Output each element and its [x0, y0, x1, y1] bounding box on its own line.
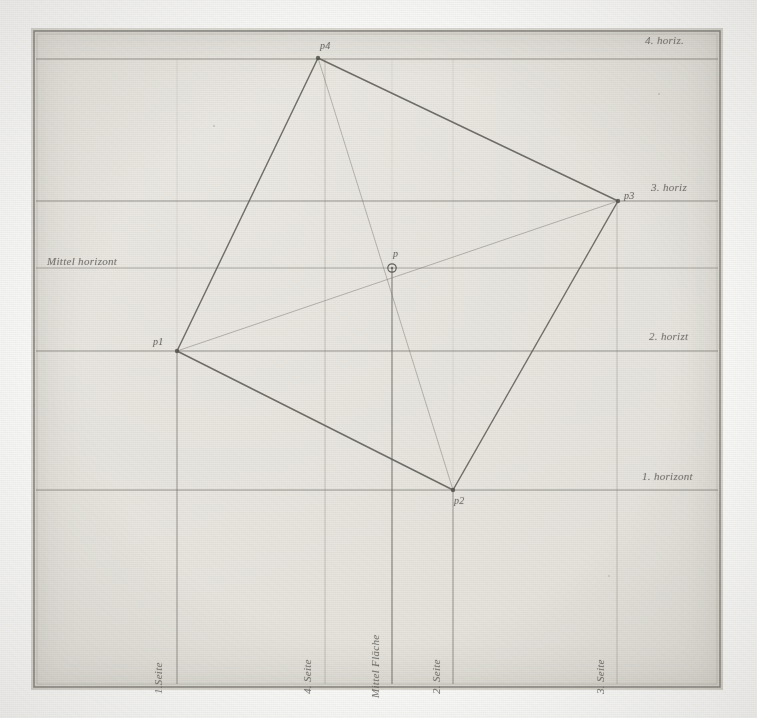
vertex-p1: [175, 349, 179, 353]
vertex-p2: [451, 488, 455, 492]
edge-p1-p4: [177, 58, 318, 351]
vertex-p4: [316, 56, 320, 60]
vertex-p-center-dot: [391, 267, 393, 269]
vertex-p3: [616, 199, 620, 203]
geometric-construction-drawing: [0, 0, 757, 718]
edge-p3-p2: [453, 201, 618, 490]
quadrilateral: [177, 58, 618, 490]
page-root: 4. horiz. 3. horiz 2. horizt 1. horizont…: [0, 0, 757, 718]
scan-specks: [33, 93, 660, 577]
vertical-construction-lines: [177, 59, 617, 684]
diagonal-p4-p2: [318, 58, 453, 490]
edge-p4-p3: [318, 58, 618, 201]
diagonal-p1-p3: [177, 201, 618, 351]
diagonals: [177, 58, 618, 490]
vertex-markers: [175, 56, 620, 492]
horizon-lines: [36, 59, 718, 490]
edge-p2-p1: [177, 351, 453, 490]
faint-grid-verticals: [177, 59, 453, 490]
